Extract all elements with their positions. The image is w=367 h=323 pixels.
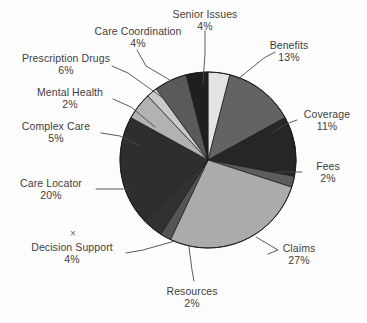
pie-label-care-locator: Care Locator 20% bbox=[8, 177, 94, 201]
pie-label-mental-health-name: Mental Health bbox=[28, 86, 112, 98]
leader-line-resources bbox=[189, 247, 194, 281]
pie-label-fees-pct: 2% bbox=[306, 172, 350, 184]
pie-label-benefits-name: Benefits bbox=[258, 39, 320, 51]
pie-label-claims: Claims 27% bbox=[272, 242, 326, 266]
pie-label-senior-issues-name: Senior Issues bbox=[163, 8, 247, 20]
pie-label-resources-pct: 2% bbox=[157, 297, 227, 309]
pie-label-care-coordination-pct: 4% bbox=[86, 37, 190, 49]
pie-label-care-coordination: Care Coordination 4% bbox=[86, 25, 190, 49]
pie-label-claims-name: Claims bbox=[272, 242, 326, 254]
stray-x-mark: × bbox=[70, 229, 76, 239]
pie-label-complex-care-pct: 5% bbox=[12, 132, 100, 144]
pie-label-fees-name: Fees bbox=[306, 160, 350, 172]
pie-label-coverage-name: Coverage bbox=[294, 108, 360, 120]
pie-label-complex-care-name: Complex Care bbox=[12, 120, 100, 132]
pie-label-mental-health: Mental Health 2% bbox=[28, 86, 112, 110]
pie-chart-figure: Senior Issues 4% Care Coordination 4% Be… bbox=[0, 0, 367, 323]
pie-label-claims-pct: 27% bbox=[272, 254, 326, 266]
pie-label-resources-name: Resources bbox=[157, 285, 227, 297]
pie-slice-group bbox=[120, 72, 296, 248]
pie-label-complex-care: Complex Care 5% bbox=[12, 120, 100, 144]
pie-label-prescription-drugs-pct: 6% bbox=[16, 64, 116, 76]
pie-label-coverage-pct: 11% bbox=[294, 120, 360, 132]
pie-label-decision-support: Decision Support 4% bbox=[20, 241, 124, 265]
pie-label-care-coordination-name: Care Coordination bbox=[86, 25, 190, 37]
pie-label-prescription-drugs: Prescription Drugs 6% bbox=[16, 52, 116, 76]
pie-label-decision-support-pct: 4% bbox=[20, 253, 124, 265]
pie-label-decision-support-name: Decision Support bbox=[20, 241, 124, 253]
pie-label-care-locator-pct: 20% bbox=[8, 189, 94, 201]
pie-label-resources: Resources 2% bbox=[157, 285, 227, 309]
pie-label-fees: Fees 2% bbox=[306, 160, 350, 184]
pie-label-mental-health-pct: 2% bbox=[28, 98, 112, 110]
pie-label-prescription-drugs-name: Prescription Drugs bbox=[16, 52, 116, 64]
pie-label-benefits-pct: 13% bbox=[258, 51, 320, 63]
pie-label-coverage: Coverage 11% bbox=[294, 108, 360, 132]
leader-line-decision-support bbox=[126, 241, 175, 253]
pie-label-care-locator-name: Care Locator bbox=[8, 177, 94, 189]
pie-label-benefits: Benefits 13% bbox=[258, 39, 320, 63]
